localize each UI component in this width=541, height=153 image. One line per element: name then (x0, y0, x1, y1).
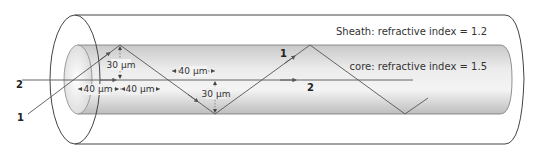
ray-1-mid-label: 1 (280, 48, 287, 59)
width-top-label: 40 µm (179, 66, 208, 76)
core-index-label: core: refractive index = 1.5 (350, 61, 487, 72)
optical-fibre-diagram: 30 µm 40 µm 40 µm 40 µm 30 µm 2 1 1 2 Sh… (0, 0, 541, 153)
sheath-index-label: Sheath: refractive index = 1.2 (336, 26, 487, 37)
ray-2-start-label: 2 (16, 79, 23, 90)
width-left-b-label: 40 µm (126, 84, 155, 94)
height-left-label: 30 µm (107, 60, 136, 70)
ray-2-mid-label: 2 (307, 82, 314, 93)
ray-1-start-label: 1 (17, 112, 24, 123)
width-left-a-label: 40 µm (84, 84, 113, 94)
core (64, 45, 512, 114)
height-mid-label: 30 µm (202, 89, 231, 99)
